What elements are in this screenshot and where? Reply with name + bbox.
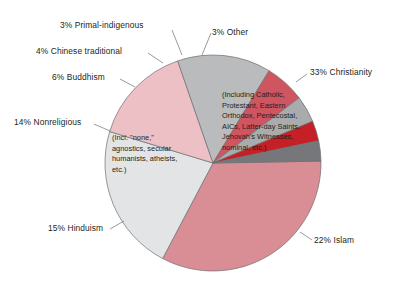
leader-line-islam bbox=[300, 232, 312, 240]
slice-label-nonreligious: 14% Nonreligious bbox=[14, 118, 81, 127]
slice-note-nonreligious: (Incl. "none," agnostics, secular humani… bbox=[112, 133, 178, 175]
pie-chart-canvas bbox=[0, 0, 409, 291]
slice-label-buddhism: 6% Buddhism bbox=[52, 73, 105, 82]
leader-line-nonreligious bbox=[94, 124, 110, 131]
leader-line-other bbox=[202, 33, 211, 55]
slice-note-christianity: (Including Catholic, Protestant, Eastern… bbox=[222, 90, 318, 153]
slice-label-islam: 22% Islam bbox=[314, 236, 354, 245]
leader-line-buddhism bbox=[120, 79, 135, 87]
slice-label-hinduism: 15% Hinduism bbox=[48, 224, 103, 233]
pie-chart-figure: 33% Christianity 22% Islam 15% Hinduism … bbox=[0, 0, 409, 291]
leader-line-chinese bbox=[148, 53, 163, 63]
leader-line-hinduism bbox=[110, 221, 124, 229]
leader-line-primal bbox=[172, 30, 182, 55]
slice-label-other: 3% Other bbox=[212, 28, 248, 37]
slice-label-christianity: 33% Christianity bbox=[310, 68, 372, 77]
slice-label-primal-indigenous: 3% Primal-indigenous bbox=[60, 21, 143, 30]
leader-line-christianity bbox=[296, 74, 307, 82]
slice-label-chinese-traditional: 4% Chinese traditional bbox=[36, 47, 122, 56]
